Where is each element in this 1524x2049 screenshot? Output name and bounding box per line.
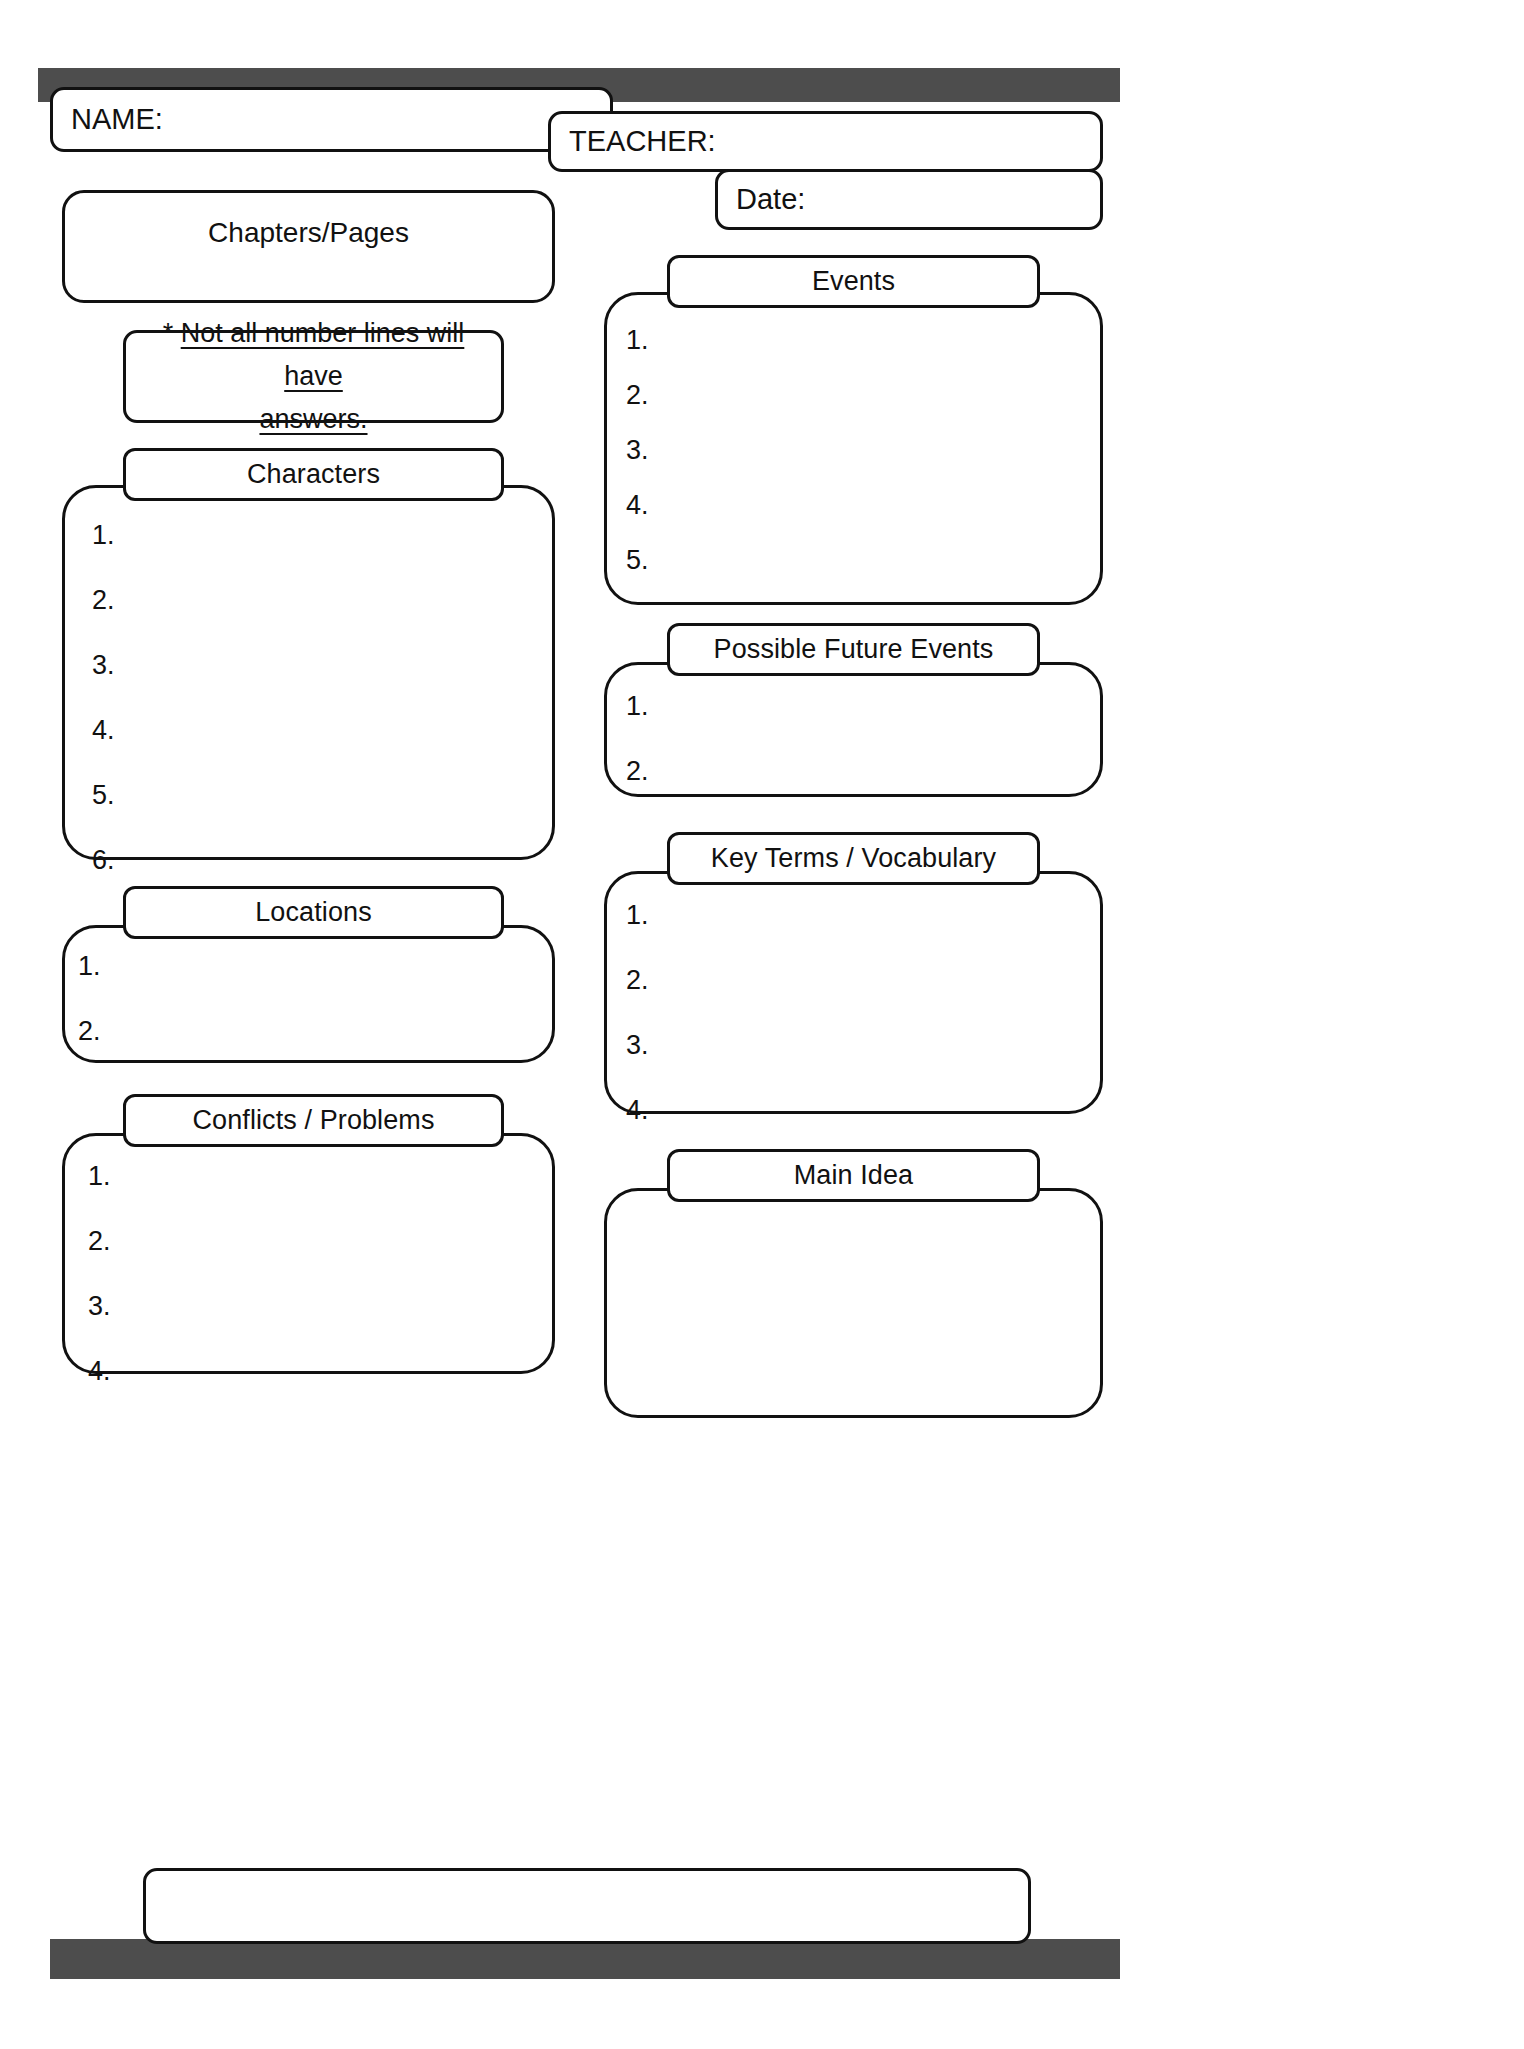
teacher-label: TEACHER: — [551, 127, 716, 156]
key-terms-vocabulary-panel[interactable] — [604, 871, 1103, 1114]
list-item: 5. — [626, 547, 649, 574]
main-idea-title: Main Idea — [794, 1162, 913, 1189]
conflicts-problems-title: Conflicts / Problems — [192, 1107, 434, 1134]
list-item: 1. — [626, 693, 649, 720]
list-item: 3. — [88, 1293, 111, 1320]
locations-title: Locations — [255, 899, 371, 926]
possible-future-events-list: 1. 2. — [626, 693, 649, 785]
possible-future-events-panel[interactable] — [604, 662, 1103, 797]
list-item: 3. — [626, 437, 649, 464]
conflicts-problems-header[interactable]: Conflicts / Problems — [123, 1094, 504, 1147]
worksheet-page: NAME: TEACHER: Date: Chapters/Pages * No… — [0, 0, 1524, 2049]
note-box: * Not all number lines will have answers… — [123, 330, 504, 423]
events-header[interactable]: Events — [667, 255, 1040, 308]
possible-future-events-title: Possible Future Events — [714, 636, 994, 663]
events-title: Events — [812, 268, 895, 295]
list-item: 2. — [92, 587, 115, 614]
list-item: 1. — [92, 522, 115, 549]
date-label: Date: — [718, 185, 805, 214]
events-panel[interactable] — [604, 292, 1103, 605]
key-terms-vocabulary-list: 1. 2. 3. 4. — [626, 902, 649, 1124]
conflicts-problems-list: 1. 2. 3. 4. — [88, 1163, 111, 1385]
note-asterisk: * — [163, 318, 181, 348]
list-item: 1. — [78, 953, 101, 980]
key-terms-vocabulary-title: Key Terms / Vocabulary — [711, 845, 996, 872]
list-item: 3. — [92, 652, 115, 679]
list-item: 2. — [626, 967, 649, 994]
characters-header[interactable]: Characters — [123, 448, 504, 501]
main-idea-panel[interactable] — [604, 1188, 1103, 1418]
list-item: 2. — [88, 1228, 111, 1255]
list-item: 6. — [92, 847, 115, 874]
list-item: 4. — [626, 492, 649, 519]
chapters-pages-title: Chapters/Pages — [208, 193, 409, 247]
note-line-1: Not all number lines will have — [181, 318, 465, 391]
main-idea-header[interactable]: Main Idea — [667, 1149, 1040, 1202]
note-line-2: answers. — [259, 404, 367, 434]
note-text: * Not all number lines will have answers… — [126, 312, 501, 442]
characters-panel[interactable] — [62, 485, 555, 860]
list-item: 2. — [626, 758, 649, 785]
footer-answer-box[interactable] — [143, 1868, 1031, 1944]
list-item: 1. — [626, 327, 649, 354]
possible-future-events-header[interactable]: Possible Future Events — [667, 623, 1040, 676]
list-item: 4. — [92, 717, 115, 744]
events-list: 1. 2. 3. 4. 5. — [626, 327, 649, 574]
key-terms-vocabulary-header[interactable]: Key Terms / Vocabulary — [667, 832, 1040, 885]
list-item: 4. — [626, 1097, 649, 1124]
chapters-pages-box[interactable]: Chapters/Pages — [62, 190, 555, 303]
name-label: NAME: — [53, 105, 163, 134]
name-field[interactable]: NAME: — [50, 87, 613, 152]
list-item: 2. — [626, 382, 649, 409]
locations-panel[interactable] — [62, 925, 555, 1063]
locations-list: 1. 2. — [78, 953, 101, 1045]
list-item: 3. — [626, 1032, 649, 1059]
characters-list: 1. 2. 3. 4. 5. 6. — [92, 522, 115, 874]
characters-title: Characters — [247, 461, 380, 488]
bottom-decorative-bar — [50, 1939, 1120, 1979]
list-item: 2. — [78, 1018, 101, 1045]
teacher-field[interactable]: TEACHER: — [548, 111, 1103, 172]
conflicts-problems-panel[interactable] — [62, 1133, 555, 1374]
list-item: 1. — [626, 902, 649, 929]
date-field[interactable]: Date: — [715, 169, 1103, 230]
list-item: 4. — [88, 1358, 111, 1385]
locations-header[interactable]: Locations — [123, 886, 504, 939]
list-item: 5. — [92, 782, 115, 809]
list-item: 1. — [88, 1163, 111, 1190]
